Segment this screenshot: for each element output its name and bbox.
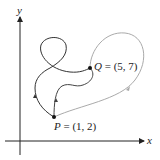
point-Q-coords: = (5, 7) <box>102 60 138 72</box>
diagram-canvas <box>0 0 160 160</box>
point-Q-label: Q = (5, 7) <box>94 61 137 72</box>
point-Q-name: Q <box>94 60 102 72</box>
point-P-label: P = (1, 2) <box>54 121 96 132</box>
point-P-name: P <box>54 120 61 132</box>
arrow-icon <box>54 98 58 102</box>
y-axis-label: y <box>17 5 22 16</box>
point-P <box>52 115 56 119</box>
x-axis-label: x <box>147 135 152 146</box>
point-Q <box>88 66 92 70</box>
left-loop-path <box>35 38 90 118</box>
right-gray-path <box>54 33 144 117</box>
point-P-coords: = (1, 2) <box>61 120 97 132</box>
